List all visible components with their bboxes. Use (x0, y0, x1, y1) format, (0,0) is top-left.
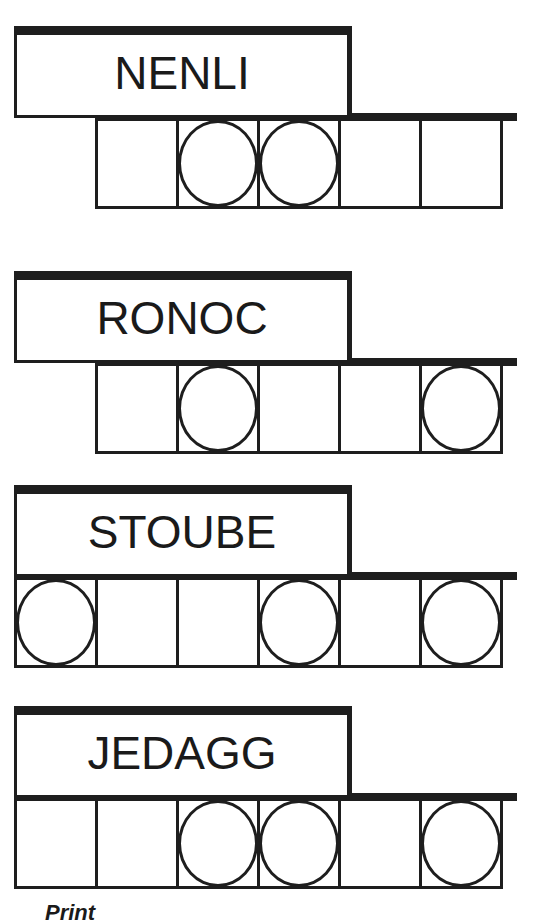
answer-cell[interactable] (95, 577, 179, 668)
answer-cell[interactable] (257, 363, 341, 454)
scrambled-word: RONOC (96, 291, 267, 345)
answer-cell-circled[interactable] (419, 363, 503, 454)
word-puzzle-1: NENLI (14, 26, 517, 209)
scrambled-word: STOUBE (88, 505, 276, 559)
answer-cell[interactable] (14, 798, 98, 889)
scrambled-word: JEDAGG (87, 726, 276, 780)
scrambled-word-box: NENLI (14, 26, 352, 118)
answer-cell-circled[interactable] (257, 118, 341, 209)
answer-cell-circled[interactable] (176, 798, 260, 889)
answer-cell-circled[interactable] (257, 798, 341, 889)
answer-cell-circled[interactable] (176, 363, 260, 454)
answer-cell-circled[interactable] (176, 118, 260, 209)
word-puzzle-2: RONOC (14, 271, 517, 454)
answer-cell[interactable] (95, 363, 179, 454)
scrambled-word: NENLI (114, 46, 249, 100)
scrambled-word-box: STOUBE (14, 485, 352, 577)
footer-text: Print (45, 900, 95, 924)
word-puzzle-4: JEDAGG (14, 706, 517, 889)
scrambled-word-box: RONOC (14, 271, 352, 363)
answer-cell-circled[interactable] (419, 577, 503, 668)
answer-cell[interactable] (95, 798, 179, 889)
answer-cells (95, 363, 503, 454)
answer-cell[interactable] (176, 577, 260, 668)
answer-cells (14, 798, 503, 889)
answer-cells (95, 118, 503, 209)
answer-cells (14, 577, 503, 668)
answer-cell-circled[interactable] (257, 577, 341, 668)
answer-cell[interactable] (95, 118, 179, 209)
word-puzzle-3: STOUBE (14, 485, 517, 668)
answer-cell[interactable] (338, 577, 422, 668)
answer-cell[interactable] (338, 363, 422, 454)
answer-cell[interactable] (338, 798, 422, 889)
answer-cell[interactable] (419, 118, 503, 209)
scrambled-word-box: JEDAGG (14, 706, 352, 798)
answer-cell[interactable] (338, 118, 422, 209)
answer-cell-circled[interactable] (14, 577, 98, 668)
answer-cell-circled[interactable] (419, 798, 503, 889)
